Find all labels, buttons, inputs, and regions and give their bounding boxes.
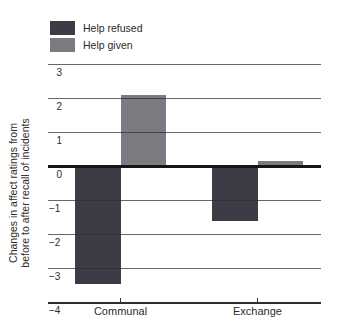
gridline-y--2: [48, 234, 321, 235]
x-category-label-communal: Communal: [76, 305, 166, 317]
y-tick-label--1: −1: [49, 204, 60, 214]
gridline-y-1: [48, 132, 321, 133]
bar-communal-help-given: [121, 95, 167, 166]
y-tick-label--3: −3: [49, 272, 60, 282]
y-tick-label-0: 0: [57, 170, 63, 180]
bar-exchange-help-refused: [212, 167, 258, 221]
gridline-y-3: [48, 64, 321, 65]
gridline-y-2: [48, 98, 321, 99]
plot-area: CommunalExchange3210−1−2−3−4: [0, 0, 339, 330]
gridline-y--1: [48, 200, 321, 201]
y-tick-label-1: 1: [57, 136, 63, 146]
y-axis-title-line1: Changes in affect ratings from: [7, 118, 19, 267]
y-tick-label--2: −2: [49, 238, 60, 248]
y-tick-label-2: 2: [57, 102, 63, 112]
bar-chart: Help refused Help given Changes in affec…: [0, 0, 339, 330]
y-tick-label--4: −4: [49, 306, 60, 316]
zero-line: [48, 165, 321, 168]
y-axis-title-line2: before to after recall of incidents: [19, 118, 31, 267]
x-axis-line: [48, 302, 321, 304]
y-axis-title: Changes in affect ratings from before to…: [7, 118, 31, 267]
y-tick-label-3: 3: [57, 68, 63, 78]
bar-communal-help-refused: [75, 167, 121, 284]
x-category-label-exchange: Exchange: [213, 305, 303, 317]
gridline-y--3: [48, 268, 321, 269]
